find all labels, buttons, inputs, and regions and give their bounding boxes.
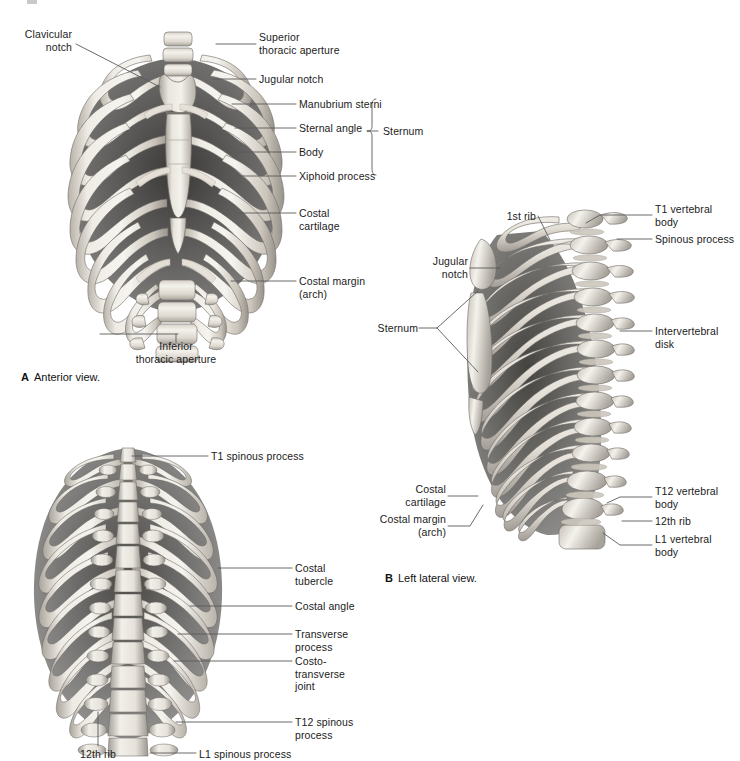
panel-a-illustration (46, 18, 306, 363)
label-a-clavicular-notch: Clavicular notch (6, 28, 72, 53)
label-c-costal-tubercle: Costal tubercle (295, 562, 385, 587)
label-a-manubrium-sterni: Manubrium sterni (299, 98, 419, 111)
label-a-jugular-notch: Jugular notch (259, 73, 379, 86)
label-b-sternum: Sternum (358, 322, 418, 335)
caption-panel-b: BLeft lateral view. (385, 572, 477, 585)
label-b-first-rib: 1st rib (478, 210, 536, 223)
caption-a-text: Anterior view. (34, 371, 100, 383)
label-b-t12-vertebral-body: T12 vertebral body (655, 485, 740, 510)
caption-b-letter: B (385, 572, 393, 584)
label-c-costotransverse-joint: Costo- transverse joint (295, 655, 390, 693)
caption-panel-a: AAnterior view. (21, 371, 100, 384)
label-b-costal-cartilage: Costal cartilage (378, 483, 446, 508)
label-a-superior-thoracic-aperture: Superior thoracic aperture (259, 31, 389, 56)
figure-page: Clavicular notch Superior thoracic apert… (0, 0, 740, 761)
panel-b-illustration (455, 205, 635, 560)
label-a-costal-cartilage: Costal cartilage (299, 207, 409, 232)
label-a-sternum-bracket: Sternum (383, 125, 463, 138)
label-b-l1-vertebral-body: L1 vertebral body (655, 533, 740, 558)
label-c-twelfth-rib: 12th rib (66, 748, 130, 761)
caption-b-text: Left lateral view. (398, 572, 477, 584)
label-c-costal-angle: Costal angle (295, 600, 405, 613)
label-c-transverse-process: Transverse process (295, 628, 390, 653)
label-c-t12-spinous-process: T12 spinous process (295, 716, 390, 741)
label-b-costal-margin-arch: Costal margin (arch) (358, 513, 446, 538)
label-a-body: Body (299, 146, 419, 159)
label-a-inferior-thoracic-aperture: Inferior thoracic aperture (106, 340, 246, 365)
label-c-t1-spinous-process: T1 spinous process (211, 450, 361, 463)
label-b-jugular-notch: Jugular notch (398, 255, 468, 280)
page-top-crop-mark (27, 0, 37, 4)
label-a-xiphoid-process: Xiphoid process (299, 170, 419, 183)
label-a-costal-margin-arch: Costal margin (arch) (299, 275, 409, 300)
label-b-intervertebral-disk: Intervertebral disk (655, 325, 740, 350)
label-b-spinous-process: Spinous process (655, 233, 740, 246)
panel-c-illustration (18, 440, 238, 760)
label-b-t1-vertebral-body: T1 vertebral body (655, 203, 740, 228)
caption-a-letter: A (21, 371, 29, 383)
label-c-l1-spinous-process: L1 spinous process (199, 748, 359, 761)
label-b-twelfth-rib: 12th rib (655, 515, 740, 528)
